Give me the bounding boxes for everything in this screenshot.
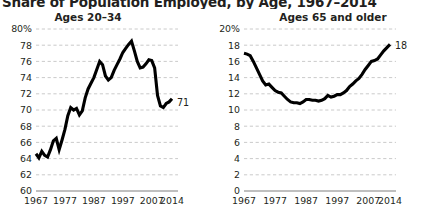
x-axis-tick-label: 1997 [325,195,349,206]
y-axis-tick-label: 18 [228,40,240,51]
data-line-ages-65-and-older [244,44,390,103]
y-axis-tick-label: 80% [11,23,32,34]
x-axis-tick-label: 1967 [232,195,256,206]
x-axis-tick-label: 2007 [356,195,380,206]
chart-panel-ages-20-34: Ages 20–34 6062646668707274767880%196719… [0,11,212,216]
x-axis-tick-label: 1977 [263,195,287,206]
y-axis-tick-label: 16 [228,56,240,67]
x-axis-tick-label: 2014 [160,195,184,206]
y-axis-tick-label: 64 [20,153,32,164]
y-axis-tick-label: 76 [20,56,32,67]
y-axis-tick-label: 8 [234,121,240,132]
y-axis-tick-label: 20% [219,23,240,34]
y-axis-tick-label: 10 [228,104,240,115]
end-value-label: 71 [177,97,189,108]
x-axis-tick-label: 2014 [378,195,402,206]
page-title: Share of Population Employed, by Age, 19… [2,0,420,9]
x-axis-tick-label: 1967 [24,195,48,206]
x-axis-tick-label: 1997 [111,195,135,206]
y-axis-tick-label: 68 [20,121,32,132]
x-axis-tick-label: 1987 [82,195,106,206]
chart-panel-ages-65-older: Ages 65 and older 02468101214161820%1967… [212,11,422,216]
y-axis-tick-label: 4 [234,153,240,164]
data-line-ages-20-34 [36,41,172,158]
y-axis-tick-label: 78 [20,40,32,51]
line-chart-ages-65-older: 02468101214161820%1967197719871997200720… [212,11,422,216]
y-axis-tick-label: 14 [228,72,240,83]
y-axis-tick-label: 62 [20,169,32,180]
end-value-label: 18 [395,40,407,51]
y-axis-tick-label: 66 [20,137,32,148]
y-axis-tick-label: 74 [20,72,32,83]
y-axis-tick-label: 2 [234,169,240,180]
y-axis-tick-label: 72 [20,88,32,99]
y-axis-tick-label: 70 [20,104,32,115]
chart-page: Share of Population Employed, by Age, 19… [0,0,422,216]
x-axis-tick-label: 1987 [294,195,318,206]
y-axis-tick-label: 6 [234,137,240,148]
x-axis-tick-label: 1977 [53,195,77,206]
y-axis-tick-label: 12 [228,88,240,99]
line-chart-ages-20-34: 6062646668707274767880%19671977198719972… [0,11,212,216]
